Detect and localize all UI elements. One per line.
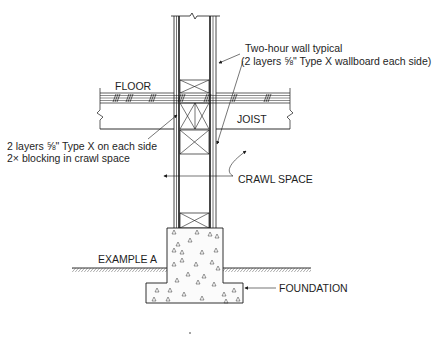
- example-label: EXAMPLE A: [98, 253, 157, 265]
- joist-label: JOIST: [237, 113, 267, 125]
- blocking-note-line1: 2 layers ⅝" Type X on each side: [7, 140, 157, 152]
- wall: [171, 13, 220, 228]
- blocking-note-line2: 2× blocking in crawl space: [7, 152, 130, 164]
- stray-dot: [189, 332, 191, 334]
- wall-section-diagram: [0, 0, 443, 337]
- wall-note-line2: (2 layers ⅝" Type X wallboard each side): [241, 55, 431, 67]
- foundation-label: FOUNDATION: [279, 282, 348, 294]
- crawl-space-label: CRAWL SPACE: [238, 173, 313, 185]
- foundation: [146, 228, 243, 303]
- floor-label: FLOOR: [115, 80, 151, 92]
- wall-note-line1: Two-hour wall typical: [245, 42, 342, 54]
